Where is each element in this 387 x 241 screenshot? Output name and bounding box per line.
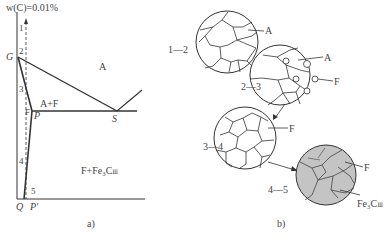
point-q-label: Q <box>16 202 23 212</box>
region-lower-label: F+Fe₃CⅢ <box>81 166 118 177</box>
panel-b-caption: b) <box>277 219 285 229</box>
micro-circle-3 <box>214 107 298 171</box>
step-1-label: 1 <box>19 23 24 33</box>
micro-circle-2 <box>250 45 333 120</box>
s-upper-line <box>117 90 142 111</box>
point-p-label: P <box>34 111 40 121</box>
step-4-label: 4 <box>19 156 24 166</box>
point-p-prime-label: P′ <box>30 202 38 212</box>
stage-4-cementite-label: Fe₃CⅢ <box>357 199 383 210</box>
region-two-phase-label: A+F <box>40 99 58 109</box>
diagram-canvas <box>0 0 387 241</box>
stage-2-ferrite-label: F <box>334 77 340 87</box>
micro-circle-4 <box>296 145 363 205</box>
stage-2-austenite-label: A <box>324 53 331 63</box>
step-3-label: 3 <box>19 84 24 94</box>
stage-2-3-label: 2—3 <box>241 82 261 92</box>
point-g-label: G <box>6 52 13 62</box>
point-s-label: S <box>112 114 117 124</box>
composition-label: w(C)=0.01% <box>6 3 58 13</box>
step-2-label: 2 <box>19 46 24 56</box>
panel-a-caption: a) <box>87 219 95 229</box>
ferrite-axis-label: F <box>25 107 30 117</box>
region-austenite-label: A <box>99 62 106 72</box>
step-5-label: 5 <box>31 186 36 196</box>
cooling-arrow-icon <box>24 18 28 24</box>
stage-4-5-label: 4—5 <box>268 185 288 195</box>
stage-3-ferrite-label: F <box>289 124 295 134</box>
stage-4-ferrite-label: F <box>364 163 370 173</box>
stage-1-austenite-label: A <box>265 26 272 36</box>
stage-1-2-label: 1—2 <box>168 45 188 55</box>
stage-3-4-label: 3—4 <box>203 142 223 152</box>
